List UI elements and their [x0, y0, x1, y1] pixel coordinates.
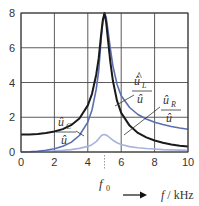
x-tick-labels: 0246810	[18, 156, 194, 168]
x-tick-label: 0	[18, 156, 24, 168]
y-tick-label: 0	[9, 146, 15, 158]
y-tick-label: 6	[9, 42, 15, 54]
series-line-uC	[21, 13, 188, 147]
svg-text:û: û	[134, 74, 140, 88]
svg-text:û: û	[58, 115, 64, 129]
x-tick-label: 4	[85, 156, 91, 168]
grid	[21, 13, 188, 152]
svg-text:C: C	[66, 122, 72, 131]
svg-text:û: û	[137, 92, 143, 106]
y-tick-label: 4	[9, 77, 15, 89]
arrow-head-icon	[140, 192, 147, 199]
svg-text:R: R	[170, 100, 176, 109]
resonance-chart: 02468 0246810 ^ û L û û C û û R û f 0 f …	[0, 0, 199, 206]
svg-text:û: û	[163, 93, 169, 107]
svg-text:f: f	[99, 176, 105, 191]
y-tick-label: 8	[9, 7, 15, 19]
x-tick-label: 6	[118, 156, 124, 168]
label-uL-over-u: ^ û L û	[115, 69, 152, 106]
y-tick-label: 2	[9, 111, 15, 123]
f0-marker: f 0	[99, 155, 110, 193]
svg-text:L: L	[141, 81, 147, 90]
x-tick-label: 2	[51, 156, 57, 168]
x-axis-label: f / kHz	[123, 188, 194, 202]
svg-text:û: û	[166, 111, 172, 125]
label-uR-over-u: û R û	[124, 93, 181, 135]
x-tick-label: 8	[152, 156, 158, 168]
x-tick-label: 10	[182, 156, 194, 168]
y-tick-labels: 02468	[9, 7, 15, 158]
svg-text:û: û	[61, 133, 67, 147]
svg-text:0: 0	[106, 184, 110, 193]
svg-text:f / kHz: f / kHz	[161, 188, 194, 202]
